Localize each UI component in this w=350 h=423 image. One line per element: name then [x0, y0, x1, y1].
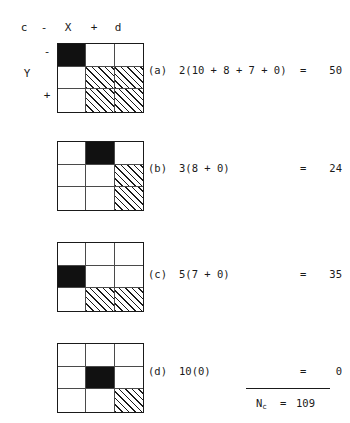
grid-cell-empty	[58, 367, 86, 390]
grid-cell-hatch	[115, 165, 143, 188]
total-symbol: Nc	[256, 394, 267, 414]
grid-cell-empty	[58, 165, 86, 188]
equation-tag-b: (b)	[148, 160, 167, 176]
equation-expression-b: 3(8 + 0)	[179, 160, 230, 176]
grid-cell-empty	[86, 165, 114, 188]
grid-cell-hatch	[115, 187, 143, 210]
grid-cell-empty	[115, 243, 143, 266]
grid-cell-empty	[115, 44, 143, 67]
grid-panel-a	[57, 43, 144, 113]
grid-cell-hatch	[86, 89, 114, 112]
axis-label-y-plus: +	[40, 90, 54, 102]
grid-cell-empty	[115, 367, 143, 390]
x-axis-labels: c - X + d	[18, 20, 148, 36]
grid-panel-b	[57, 141, 144, 211]
grid-cell-hatch	[86, 67, 114, 90]
grid-cell-empty	[58, 142, 86, 165]
axis-label-x-plus: +	[88, 22, 100, 34]
figure-root: c - X + d - Y + (a) 2(10 + 8 + 7 + 0) = …	[0, 0, 350, 423]
total-divider	[246, 388, 330, 389]
grid-cell-empty	[58, 243, 86, 266]
grid-cell-empty	[86, 243, 114, 266]
grid-panel-c	[57, 242, 144, 312]
grid-cell-empty	[58, 344, 86, 367]
grid-cell-empty	[58, 67, 86, 90]
axis-label-x-minus: -	[38, 22, 50, 34]
grid-cell-empty	[58, 89, 86, 112]
equation-value-c: 35	[316, 266, 342, 282]
total-symbol-subscript: c	[262, 402, 267, 411]
grid-cell-empty	[86, 389, 114, 412]
equation-expression-a: 2(10 + 8 + 7 + 0)	[179, 62, 286, 78]
grid-cell-empty	[58, 288, 86, 311]
grid-cell-hatch	[115, 389, 143, 412]
axis-label-y-minus: -	[40, 46, 54, 58]
axis-label-c: c	[18, 22, 30, 34]
equation-row-b: (b) 3(8 + 0) = 24	[148, 160, 348, 176]
equation-equals-c: =	[300, 266, 306, 282]
grid-cell-empty	[86, 344, 114, 367]
total-value: 109	[296, 394, 315, 412]
grid-cell-black	[58, 44, 86, 67]
equation-tag-c: (c)	[148, 266, 167, 282]
grid-cell-empty	[58, 389, 86, 412]
grid-cell-hatch	[115, 288, 143, 311]
grid-cell-hatch	[115, 67, 143, 90]
equation-row-a: (a) 2(10 + 8 + 7 + 0) = 50	[148, 62, 348, 78]
y-axis-labels: - Y +	[18, 40, 54, 114]
grid-cell-empty	[115, 266, 143, 289]
axis-label-y: Y	[20, 68, 34, 80]
total-row: Nc = 109	[246, 394, 350, 412]
grid-cell-hatch	[115, 89, 143, 112]
grid-cell-empty	[115, 142, 143, 165]
equation-value-a: 50	[316, 62, 342, 78]
grid-cell-black	[86, 367, 114, 390]
equation-value-b: 24	[316, 160, 342, 176]
equation-expression-d: 10(0)	[179, 363, 211, 379]
grid-cell-black	[86, 142, 114, 165]
axis-label-x: X	[62, 22, 74, 34]
total-equals: =	[280, 394, 286, 412]
equation-equals-d: =	[300, 363, 306, 379]
equation-tag-d: (d)	[148, 363, 167, 379]
grid-cell-empty	[86, 187, 114, 210]
grid-cell-hatch	[86, 288, 114, 311]
grid-cell-empty	[86, 44, 114, 67]
equation-row-d: (d) 10(0) = 0	[148, 363, 348, 379]
grid-cell-empty	[115, 344, 143, 367]
equation-expression-c: 5(7 + 0)	[179, 266, 230, 282]
equation-equals-a: =	[300, 62, 306, 78]
grid-cell-empty	[86, 266, 114, 289]
grid-cell-black	[58, 266, 86, 289]
equation-value-d: 0	[316, 363, 342, 379]
axis-label-d: d	[112, 22, 124, 34]
grid-panel-d	[57, 343, 144, 413]
equation-equals-b: =	[300, 160, 306, 176]
equation-row-c: (c) 5(7 + 0) = 35	[148, 266, 348, 282]
grid-cell-empty	[58, 187, 86, 210]
equation-tag-a: (a)	[148, 62, 167, 78]
